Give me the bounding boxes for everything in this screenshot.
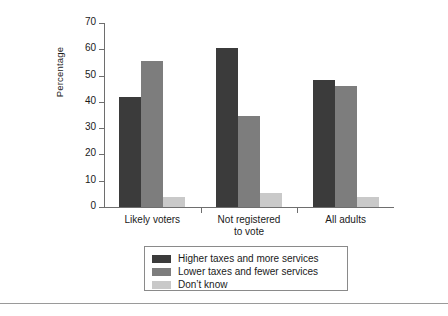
y-axis-tick-label-text: 60	[62, 42, 96, 53]
legend-swatch-icon	[152, 281, 171, 289]
legend-item[interactable]: Lower taxes and fewer services	[152, 265, 318, 278]
legend-item[interactable]: Higher taxes and more services	[152, 252, 319, 265]
y-axis-tick-label: 70	[60, 23, 96, 24]
legend-swatch-icon	[152, 268, 171, 276]
y-axis-tick-label-text: 30	[62, 121, 96, 132]
y-axis-tick-label-text: 20	[62, 147, 96, 158]
bars-layer	[104, 23, 394, 207]
x-axis-tick	[201, 208, 202, 213]
bar	[163, 197, 185, 208]
y-axis-tick-label-text: 10	[62, 174, 96, 185]
y-axis-tick-label-text: 50	[62, 69, 96, 80]
y-axis-title: Percentage	[54, 0, 68, 72]
x-axis-category-label: All adults	[286, 214, 406, 226]
y-axis-tick-label: 40	[60, 102, 96, 103]
y-axis-tick-label-text: 0	[62, 200, 96, 211]
bar	[141, 61, 163, 207]
footer-divider	[0, 303, 448, 304]
bar	[119, 97, 141, 207]
x-axis-category-label-line: All adults	[286, 214, 406, 226]
bar	[238, 116, 260, 207]
chart-legend: Higher taxes and more servicesLower taxe…	[144, 246, 348, 291]
y-axis-tick-label: 30	[60, 128, 96, 129]
y-axis-tick-label: 60	[60, 49, 96, 50]
y-axis-tick	[99, 207, 105, 208]
bar	[260, 193, 282, 207]
plot-area: Percentage 010203040506070 Likely voters…	[0, 0, 448, 316]
legend-item-label: Don’t know	[178, 279, 227, 290]
y-axis-tick-label-text: 40	[62, 95, 96, 106]
y-axis-tick-label: 20	[60, 154, 96, 155]
legend-item-label: Higher taxes and more services	[178, 253, 319, 264]
bar	[313, 80, 335, 207]
y-axis-tick-label-text: 70	[62, 16, 96, 27]
bar	[216, 48, 238, 207]
x-axis-line	[104, 207, 394, 208]
legend-swatch-icon	[152, 255, 171, 263]
bar-chart-figure: Percentage 010203040506070 Likely voters…	[0, 0, 448, 316]
bar	[357, 197, 379, 208]
bar	[335, 86, 357, 207]
y-axis-tick-label: 50	[60, 76, 96, 77]
y-axis-tick-label: 10	[60, 181, 96, 182]
legend-item-label: Lower taxes and fewer services	[178, 266, 318, 277]
x-axis-tick	[297, 208, 298, 213]
y-axis-tick-label: 0	[60, 207, 96, 208]
legend-item[interactable]: Don’t know	[152, 278, 227, 291]
x-axis-category-label-line: to vote	[189, 226, 309, 238]
